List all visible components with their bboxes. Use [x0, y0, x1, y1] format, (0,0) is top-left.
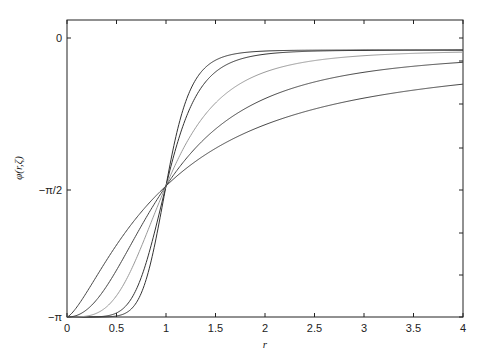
x-tick-label: 0 [64, 322, 70, 334]
x-tick-label: 0.5 [109, 322, 124, 334]
x-tick-label: 2 [262, 322, 268, 334]
y-axis-label: φ(r,ζ) [12, 156, 25, 180]
y-tick-label: 0 [56, 32, 62, 44]
x-axis-label: r [263, 338, 268, 350]
x-tick-label: 1 [163, 322, 169, 334]
x-tick-label: 3.5 [406, 322, 421, 334]
x-tick-label: 3 [361, 322, 367, 334]
x-tick-label: 4 [460, 322, 466, 334]
plot-frame [67, 20, 463, 317]
y-tick-label: −π [48, 311, 62, 323]
chart: 00.511.522.533.54 0−π/2−π r φ(r,ζ) [0, 0, 485, 363]
x-tick-label: 1.5 [208, 322, 223, 334]
x-tick-label: 2.5 [307, 322, 322, 334]
y-tick-label: −π/2 [39, 184, 62, 196]
